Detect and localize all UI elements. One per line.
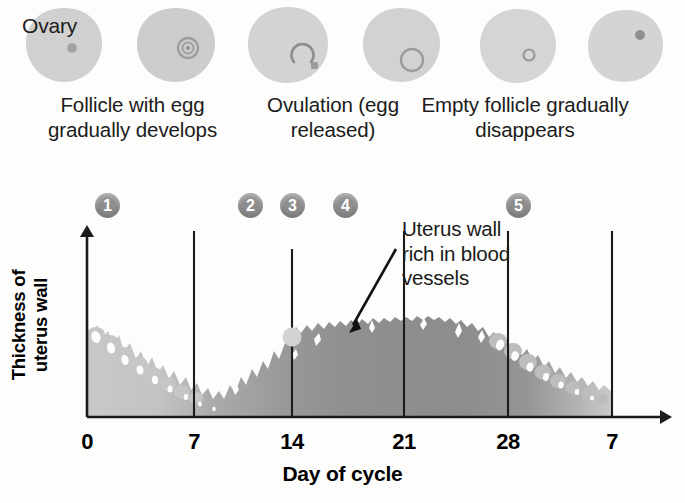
caption-ovulation: Ovulation (egg released) <box>238 92 428 142</box>
stage-badge-3[interactable]: 3 <box>280 193 305 218</box>
x-tick-21: 21 <box>392 429 415 455</box>
x-tick-28: 28 <box>496 429 519 455</box>
ovary-stage-6 <box>576 4 676 88</box>
stage-badge-5-label: 5 <box>514 198 523 214</box>
stage-badge-1-label: 1 <box>103 198 112 214</box>
y-axis-title: Thickness of uterus wall <box>8 238 52 413</box>
follicle-disappeared-icon <box>576 4 676 88</box>
released-egg-icon <box>311 62 318 69</box>
x-axis-arrowhead <box>660 410 672 424</box>
follicle-developing-icon <box>126 4 226 88</box>
ovary-stage-2 <box>126 4 226 88</box>
diagram-root: Ovary <box>0 0 685 503</box>
stage-badge-1[interactable]: 1 <box>95 193 120 218</box>
ovary-stage-row: Ovary <box>0 0 685 92</box>
caption-follicle: Follicle with egg gradually develops <box>25 92 240 142</box>
follicle-dot-icon <box>67 43 77 53</box>
stage-badge-2[interactable]: 2 <box>238 193 263 218</box>
chart-plot-area <box>0 185 685 435</box>
y-axis-arrowhead <box>80 225 94 237</box>
stage-badge-3-label: 3 <box>288 198 297 214</box>
ovary-stage-4 <box>352 4 452 88</box>
empty-follicle-small-icon <box>468 4 568 88</box>
stage-badge-4-label: 4 <box>341 198 350 214</box>
y-axis-title-line2: uterus wall <box>30 278 51 372</box>
empty-follicle-large-icon <box>352 4 452 88</box>
ovary-stage-5 <box>468 4 568 88</box>
x-axis-title: Day of cycle <box>0 462 685 486</box>
x-tick-14: 14 <box>280 429 303 455</box>
caption-empty-follicle: Empty follicle gradually disappears <box>410 92 640 142</box>
stage-badge-5[interactable]: 5 <box>506 193 531 218</box>
x-tick-7: 7 <box>188 429 200 455</box>
x-tick-35: 7 <box>606 429 618 455</box>
y-axis-title-line1: Thickness of <box>8 270 29 381</box>
uterus-wall-annotation: Uterus wall rich in blood vessels <box>402 217 512 291</box>
uterus-wall-area <box>87 316 613 417</box>
ovary-stage-3 <box>238 4 338 88</box>
ovulation-rupture-icon <box>238 4 338 88</box>
stage-badge-2-label: 2 <box>246 198 255 214</box>
uterus-wall-chart: Thickness of uterus wall <box>0 185 685 503</box>
stage-badge-4[interactable]: 4 <box>333 193 358 218</box>
ovary-label: Ovary <box>22 14 77 38</box>
ovulation-egg-marker <box>283 328 302 347</box>
x-tick-0: 0 <box>81 429 93 455</box>
